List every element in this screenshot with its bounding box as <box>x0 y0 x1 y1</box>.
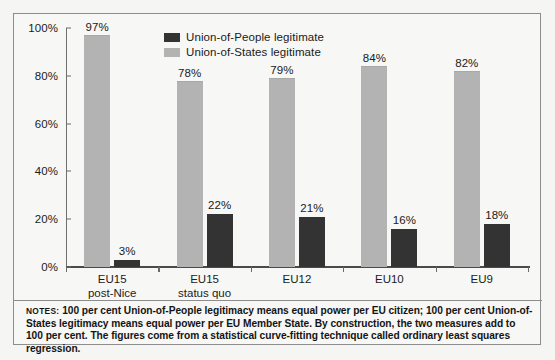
bar-union-of-people: 18% <box>484 224 510 267</box>
bar-union-of-states: 78% <box>177 81 203 267</box>
x-axis-category-line1: EU10 <box>375 273 404 285</box>
legend-item-states: Union-of-States legitimate <box>164 45 324 59</box>
bar-union-of-people: 3% <box>114 260 140 267</box>
y-axis-tick-mark <box>66 123 71 124</box>
bar-union-of-people: 22% <box>207 214 233 267</box>
x-axis-tick-mark <box>251 267 252 272</box>
bar-value-label: 16% <box>393 214 416 226</box>
bar-group: 79%21% <box>269 28 325 267</box>
notes-text: 100 per cent Union-of-People legitimacy … <box>26 305 532 354</box>
figure-notes: NOTES: 100 per cent Union-of-People legi… <box>26 305 534 355</box>
x-axis-category-line1: EU12 <box>283 273 312 285</box>
bar-group: 84%16% <box>361 28 417 267</box>
y-axis-tick-mark <box>66 219 71 220</box>
y-axis-tick-label: 60% <box>35 118 58 130</box>
y-axis-tick-mark <box>66 75 71 76</box>
bar-value-label: 97% <box>86 21 109 33</box>
plot-area: 97%3%78%22%79%21%84%16%82%18% <box>66 28 528 267</box>
x-axis-category-label: EU12 <box>283 273 312 287</box>
notes-label: NOTES: <box>26 306 59 316</box>
legend-item-people: Union-of-People legitimate <box>164 30 324 44</box>
legend-label-states: Union-of-States legitimate <box>186 46 321 58</box>
y-axis-tick-label: 0% <box>41 261 58 273</box>
x-axis-category-label: EU9 <box>471 273 493 287</box>
bar-group: 97%3% <box>84 28 140 267</box>
x-axis-category-line1: EU9 <box>471 273 493 285</box>
bar-union-of-people: 16% <box>391 229 417 267</box>
x-axis-category-label: EU15status quo <box>178 273 231 300</box>
legend-swatch-people-icon <box>164 33 180 42</box>
bar-union-of-states: 84% <box>361 66 387 267</box>
x-axis-tick-mark <box>66 267 67 272</box>
x-axis-tick-mark <box>436 267 437 272</box>
bar-value-label: 79% <box>270 64 293 76</box>
bar-union-of-people: 21% <box>299 217 325 267</box>
x-axis-category-line1: EU15 <box>98 273 127 285</box>
x-axis-category-label: EU10 <box>375 273 404 287</box>
bar-group: 78%22% <box>177 28 233 267</box>
bar-union-of-states: 82% <box>454 71 480 267</box>
figure-frame: 0%20%40%60%80%100% 97%3%78%22%79%21%84%1… <box>13 13 541 345</box>
x-axis-category-line1: EU15 <box>190 273 219 285</box>
bar-value-label: 21% <box>300 202 323 214</box>
y-axis-tick-mark <box>66 28 71 29</box>
legend-label-people: Union-of-People legitimate <box>186 31 324 43</box>
chart-legend: Union-of-People legitimate Union-of-Stat… <box>164 30 324 60</box>
x-axis-labels: EU15post-NiceEU15status quoEU12EU10EU9 <box>66 273 530 303</box>
x-axis-tick-mark <box>158 267 159 272</box>
y-axis-tick-mark <box>66 171 71 172</box>
scanned-page-background: 0%20%40%60%80%100% 97%3%78%22%79%21%84%1… <box>0 0 555 360</box>
bar-value-label: 3% <box>119 245 136 257</box>
bar-value-label: 82% <box>455 57 478 69</box>
bar-value-label: 18% <box>485 209 508 221</box>
y-axis-tick-label: 100% <box>28 22 58 34</box>
x-axis-category-line2: status quo <box>178 287 231 301</box>
x-axis-category-label: EU15post-Nice <box>88 273 137 300</box>
bar-chart: 0%20%40%60%80%100% 97%3%78%22%79%21%84%1… <box>14 14 542 299</box>
y-axis-tick-label: 20% <box>35 213 58 225</box>
bar-group: 82%18% <box>454 28 510 267</box>
x-axis-tick-mark <box>343 267 344 272</box>
x-axis-tick-mark <box>528 267 529 272</box>
bar-value-label: 84% <box>363 52 386 64</box>
bar-union-of-states: 79% <box>269 78 295 267</box>
notes-divider <box>14 300 542 301</box>
y-axis-tick-label: 40% <box>35 165 58 177</box>
bar-value-label: 22% <box>208 199 231 211</box>
y-axis: 0%20%40%60%80%100% <box>14 14 66 299</box>
x-axis-category-line2: post-Nice <box>88 287 137 301</box>
bar-value-label: 78% <box>178 67 201 79</box>
bar-union-of-states: 97% <box>84 35 110 267</box>
legend-swatch-states-icon <box>164 48 180 57</box>
y-axis-tick-label: 80% <box>35 70 58 82</box>
